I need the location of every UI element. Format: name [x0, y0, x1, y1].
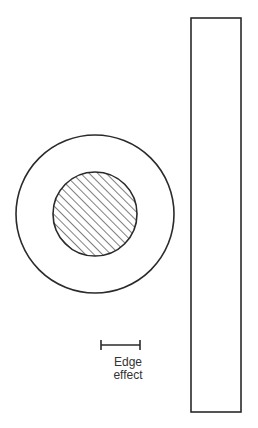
- hatched-inner-circle: [53, 172, 137, 256]
- edge-effect-scale-bar: [101, 340, 140, 350]
- tall-rectangle: [191, 18, 241, 412]
- edge-effect-label-line2: effect: [100, 369, 156, 382]
